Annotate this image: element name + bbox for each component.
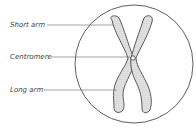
label-centromere: Centromere (10, 53, 52, 61)
right-chromatid (131, 16, 153, 113)
centromere-dot (131, 56, 135, 60)
label-long-arm: Long arm (10, 86, 43, 94)
label-short-arm: Short arm (10, 21, 45, 29)
chromosome-diagram (0, 0, 196, 128)
